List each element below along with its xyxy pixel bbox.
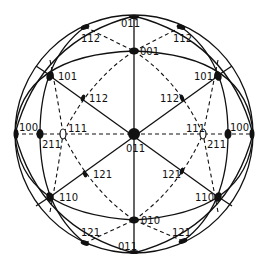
label-111-right: 111 (186, 123, 205, 134)
zone-right-outer-bottom (134, 134, 253, 253)
label-110-right: 110 (195, 192, 214, 203)
label-101-right: 101 (194, 71, 213, 82)
label-011-center: 011 (126, 143, 145, 154)
label-112-inner-left: 112 (89, 93, 108, 104)
label-121-outer-right: 121 (172, 227, 191, 238)
label-100-left: 100 (19, 122, 38, 133)
label-121-outer-left: 121 (81, 227, 100, 238)
label-112-inner-right: 112 (160, 93, 179, 104)
pole-011-center (128, 128, 140, 140)
pole-100-right (250, 129, 255, 139)
pole-101-left (45, 70, 55, 82)
pole-101-right (213, 70, 223, 82)
pole-010 (129, 217, 139, 224)
stereographic-projection: 011 011 011 001 010 100 100 211 211 111 … (0, 0, 263, 267)
label-100-right: 100 (230, 122, 249, 133)
pole-001 (129, 48, 139, 55)
label-111-left: 111 (68, 123, 87, 134)
label-001: 001 (140, 46, 159, 57)
pole-110-right (213, 191, 223, 203)
tick-110-right (220, 198, 232, 206)
label-011-bottom: 011 (118, 241, 137, 252)
label-112-outer-right: 112 (173, 33, 192, 44)
label-110-left: 110 (59, 192, 78, 203)
pole-111-left (60, 129, 66, 139)
label-101-left: 101 (58, 71, 77, 82)
label-121-inner-left: 121 (93, 169, 112, 180)
label-011-top: 011 (121, 18, 140, 29)
label-211-right: 211 (207, 139, 226, 150)
label-010: 010 (141, 215, 160, 226)
label-121-inner-right: 121 (162, 169, 181, 180)
label-211-left: 211 (42, 139, 61, 150)
pole-110-left (45, 191, 55, 203)
tick-110-left (36, 198, 48, 206)
pole-100-left (14, 129, 19, 139)
label-112-outer-left: 112 (81, 33, 100, 44)
